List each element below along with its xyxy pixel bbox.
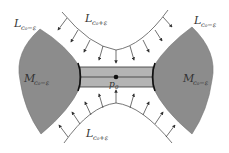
diagram-canvas: L c₀−ε L c₀+ε L c₀−ε L c₀+ε M c₀−ε M c₀−… (0, 0, 229, 153)
label-top-left-sub: c₀−ε (21, 24, 37, 32)
label-top-center-sub: c₀+ε (92, 19, 108, 27)
label-top-right-sub: c₀−ε (201, 21, 217, 29)
label-right-region-sub: c₀−ε (193, 79, 209, 87)
bottom-arrows (59, 90, 175, 137)
top-arrows (58, 17, 172, 63)
label-bottom-center-sub: c₀+ε (93, 134, 109, 142)
label-center-point-sub: 0 (115, 84, 119, 90)
label-left-region-sub: c₀−ε (34, 79, 50, 87)
